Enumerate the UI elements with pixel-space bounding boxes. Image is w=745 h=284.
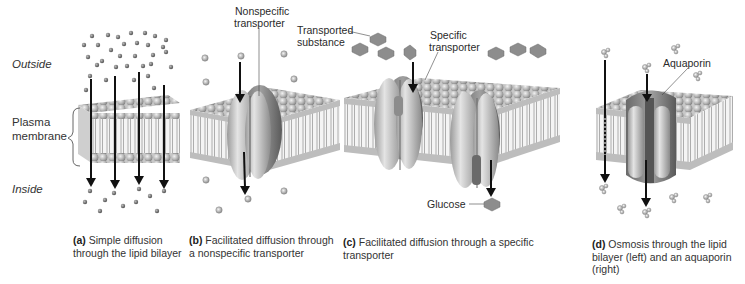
outside-label: Outside: [12, 58, 52, 70]
caption-c-line1: Facilitated diffusion through a specific: [359, 236, 534, 248]
caption-b: (b) Facilitated diffusion through a nons…: [189, 234, 334, 259]
panel-c-illustration: [344, 31, 560, 211]
specific-transporter-label-line2: transporter: [429, 41, 480, 53]
glucose-label: Glucose: [427, 198, 466, 210]
caption-d-letter: (d): [592, 238, 605, 250]
caption-a-letter: (a): [73, 234, 86, 246]
caption-d-line1: Osmosis through the lipid: [608, 238, 726, 250]
caption-b-line1: Facilitated diffusion through: [205, 234, 333, 246]
panel-b-illustration: [190, 28, 340, 213]
caption-a-line1: Simple diffusion: [89, 234, 163, 246]
panel-a-illustration: [68, 31, 180, 213]
nonspecific-transporter-label-line2: transporter: [234, 17, 285, 29]
nonspecific-transporter-label-line1: Nonspecific: [235, 5, 289, 17]
transported-substance-label-line2: substance: [297, 36, 345, 48]
specific-transporter-label-line1: Specific: [430, 29, 467, 41]
caption-d-line3: (right): [592, 263, 619, 275]
aquaporin-label: Aquaporin: [663, 57, 711, 69]
caption-a: (a) Simple diffusion through the lipid b…: [73, 234, 182, 259]
panel-d-illustration: [596, 44, 733, 218]
caption-c-letter: (c): [343, 236, 356, 248]
caption-d: (d) Osmosis through the lipid bilayer (l…: [592, 238, 732, 276]
plasma-membrane-label-line1: Plasma: [12, 116, 50, 128]
transported-substance-label-line1: Transported: [297, 24, 353, 36]
caption-a-line2: through the lipid bilayer: [73, 247, 182, 259]
caption-b-letter: (b): [189, 234, 202, 246]
caption-b-line2: a nonspecific transporter: [189, 247, 304, 259]
plasma-membrane-label-line2: membrane: [12, 130, 67, 142]
caption-c: (c) Facilitated diffusion through a spec…: [343, 236, 534, 261]
caption-d-line2: bilayer (left) and an aquaporin: [592, 251, 732, 263]
inside-label: Inside: [12, 183, 43, 195]
caption-c-line2: transporter: [343, 249, 394, 261]
